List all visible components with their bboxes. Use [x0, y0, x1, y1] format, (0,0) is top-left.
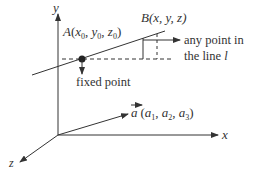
line-3d-diagram: y x z A(x0, y0, z0) B(x, y, z) any point… — [0, 0, 260, 174]
z-axis — [20, 135, 58, 162]
z-axis-label: z — [8, 156, 14, 170]
x-axis-label: x — [221, 127, 228, 142]
any-point-label: any point in — [184, 33, 244, 47]
vector-a — [58, 114, 128, 135]
point-a-label: A(x0, y0, z0) — [62, 24, 121, 41]
any-point-label-line2: the line l — [184, 49, 228, 63]
fixed-point-label: fixed point — [76, 75, 131, 89]
vector-a-label: a(a1, a2, a3) — [131, 105, 194, 122]
y-axis-label: y — [51, 0, 59, 15]
point-b-label: B(x, y, z) — [141, 10, 186, 25]
